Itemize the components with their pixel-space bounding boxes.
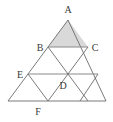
- shaded-triangle-abc: [48, 20, 88, 47]
- geometry-figure: A B C E D F: [0, 0, 113, 122]
- vertex-label-b: B: [37, 42, 44, 53]
- vertex-label-e: E: [17, 69, 23, 80]
- vertex-label-d: D: [59, 80, 66, 91]
- vertex-label-f: F: [35, 106, 41, 117]
- grid-line-parallel-right-2: [80, 74, 98, 101]
- vertex-label-a: A: [64, 4, 72, 15]
- grid-line-parallel-left-2: [28, 74, 48, 101]
- vertex-label-c: C: [92, 42, 99, 53]
- triangle-diagram-svg: A B C E D F: [0, 0, 113, 122]
